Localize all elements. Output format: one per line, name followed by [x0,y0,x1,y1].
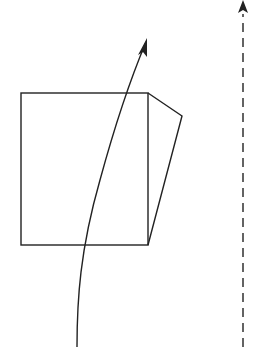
diagram-canvas [0,0,261,364]
side-face [148,93,182,245]
dashed-arrow-head-icon [238,0,248,13]
square [21,93,148,245]
curved-arrow [77,42,146,347]
curved-arrow-head-icon [138,38,147,57]
